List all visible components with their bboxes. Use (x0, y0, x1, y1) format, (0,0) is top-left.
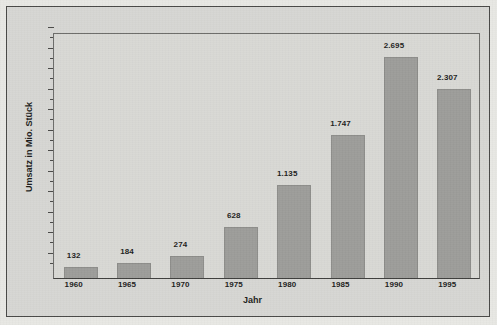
bar-1970 (170, 256, 204, 278)
x-tick-1970: 1970 (171, 280, 189, 289)
x-axis-title: Jahr (243, 295, 262, 305)
bar-1965 (117, 263, 151, 278)
bar-value-label-1970: 274 (174, 240, 188, 249)
bar-1990 (384, 57, 418, 278)
bar-1975 (224, 227, 258, 278)
x-tick-1960: 1960 (65, 280, 83, 289)
x-tick-1965: 1965 (118, 280, 136, 289)
x-tick-1980: 1980 (278, 280, 296, 289)
x-tick-1975: 1975 (225, 280, 243, 289)
bar-1985 (331, 135, 365, 278)
plot-area (53, 33, 480, 279)
y-axis-title: Umsatz in Mio. Stück (24, 87, 34, 207)
bar-chart-figure: Umsatz in Mio. Stück 1321842746281.1351.… (7, 7, 489, 316)
x-tick-1985: 1985 (331, 280, 349, 289)
bar-value-label-1995: 2.307 (437, 73, 458, 82)
bar-value-label-1990: 2.695 (384, 41, 405, 50)
x-tick-1995: 1995 (438, 280, 456, 289)
x-tick-1990: 1990 (385, 280, 403, 289)
y-axis-tick (48, 27, 54, 28)
bar-value-label-1960: 132 (67, 251, 81, 260)
bar-value-label-1975: 628 (227, 211, 241, 220)
figure-outer-border: Umsatz in Mio. Stück 1321842746281.1351.… (6, 6, 490, 317)
bar-value-label-1965: 184 (120, 247, 134, 256)
bar-value-label-1985: 1.747 (330, 119, 351, 128)
chart-screenshot: Umsatz in Mio. Stück 1321842746281.1351.… (0, 0, 497, 325)
bar-1980 (277, 185, 311, 278)
bar-value-label-1980: 1.135 (277, 169, 298, 178)
bar-1995 (437, 89, 471, 278)
bar-1960 (64, 267, 98, 278)
